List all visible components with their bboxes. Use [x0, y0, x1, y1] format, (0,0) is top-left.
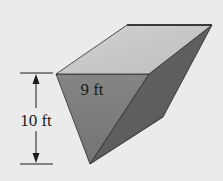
arrow-down-icon	[33, 153, 40, 163]
arrow-up-icon	[33, 74, 40, 84]
prism-diagram: 9 ft 10 ft	[0, 0, 223, 181]
height-label: 10 ft	[20, 111, 52, 130]
width-label: 9 ft	[80, 80, 103, 99]
